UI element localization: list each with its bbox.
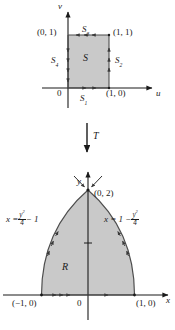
xy-origin-label: 0 [77,299,82,308]
uv-origin-label: 0 [57,89,62,98]
apex-label: (0, 2) [94,189,114,198]
corner-label-0-1: (0, 1) [37,28,57,37]
edge-label-s4: S4 [51,56,58,67]
edge-label-s2-base: S [115,55,120,65]
edge-label-s3-sub: 3 [87,31,90,37]
left-intercept-point [40,294,43,297]
left-intercept-label: (−1, 0) [12,299,37,308]
edge-label-s3: S3 [82,25,89,36]
right-curve-fraction: y24 [131,211,138,228]
corner-label-1-1: (1, 1) [113,28,133,37]
transformation-figure [0,0,175,330]
left-curve-fraction: y24 [18,211,25,228]
u-axis-label: u [156,89,161,98]
edge-label-s2-sub: 2 [120,62,123,68]
y-axis-label: y [77,177,81,186]
right-curve-exponent: 2 [136,209,138,214]
right-curve-lhs: x = 1 − [104,214,131,224]
edge-label-s1: S1 [80,94,87,105]
corner-label-1-0: (1, 0) [106,89,126,98]
edge-label-s4-base: S [51,55,56,65]
left-curve-lhs: x = [6,214,18,224]
apex-point [86,188,89,191]
edge-label-s4-sub: 4 [56,62,59,68]
unit-square-region [68,35,109,88]
edge-label-s1-sub: 1 [85,100,88,106]
left-curve-tail: − 1 [26,214,39,224]
left-curve-denominator: 4 [18,220,25,227]
corner-point-1-1 [108,34,110,36]
region-label-r: R [62,262,68,272]
left-curve-exponent: 2 [23,209,25,214]
right-intercept-label: (1, 0) [136,299,156,308]
right-curve-denominator: 4 [131,220,138,227]
v-axis-label: v [58,2,62,11]
edge-label-s2: S2 [115,56,122,67]
edge-label-s3-base: S [82,24,87,34]
right-intercept-point [133,294,136,297]
edge-label-s1-base: S [80,93,85,103]
right-curve-equation: x = 1 −y24 [104,211,139,228]
left-curve-equation: x =y24− 1 [6,211,39,228]
transformation-label: T [93,131,99,141]
region-label-s: S [83,53,88,63]
x-axis-label: x [166,296,170,305]
